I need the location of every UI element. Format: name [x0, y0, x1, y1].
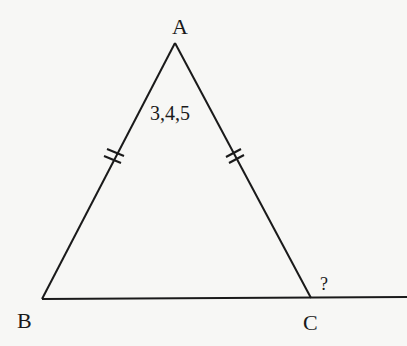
- vertex-label-a: A: [172, 14, 188, 39]
- exterior-angle-label: ?: [320, 274, 328, 294]
- background: [0, 0, 407, 346]
- vertex-label-b: B: [17, 308, 32, 333]
- apex-angle-label: 3,4,5: [150, 102, 190, 124]
- vertex-label-c: C: [303, 310, 318, 335]
- triangle-diagram: A B C 3,4,5 ?: [0, 0, 407, 346]
